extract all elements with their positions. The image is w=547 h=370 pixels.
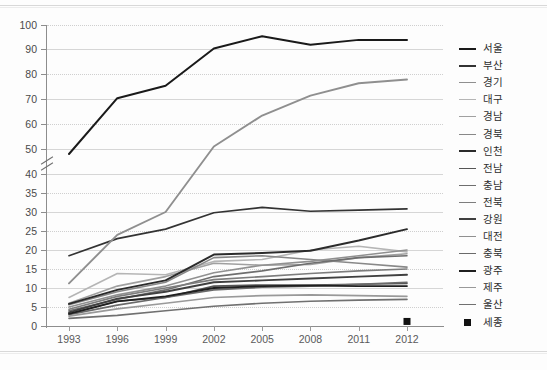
legend-line-swatch-icon	[459, 168, 476, 169]
x-axis-tick	[69, 326, 70, 331]
x-axis-tick	[166, 326, 167, 331]
series-line-서울	[69, 36, 407, 154]
x-axis-tick	[359, 326, 360, 331]
legend-line-swatch-icon	[459, 218, 476, 220]
legend-line-swatch-icon	[459, 236, 476, 237]
legend-item-경기[interactable]: 경기	[459, 74, 545, 91]
legend-item-대구[interactable]: 대구	[459, 91, 545, 108]
x-axis-tick-label: 1996	[96, 333, 138, 345]
y-axis-tick-label: 20	[3, 245, 37, 255]
y-axis-tick-label: 30	[3, 207, 37, 217]
legend-item-label: 경남	[483, 111, 503, 122]
chart-figure: 05101520253035405060708090100 1993199619…	[0, 0, 547, 370]
x-axis-tick	[117, 326, 118, 331]
legend-item-label: 광주	[483, 265, 503, 276]
y-axis-tick-label: 70	[3, 94, 37, 104]
chart-series-layer	[47, 25, 443, 326]
legend-item-강원[interactable]: 강원	[459, 211, 545, 228]
legend-item-충남[interactable]: 충남	[459, 177, 545, 194]
legend-item-전북[interactable]: 전북	[459, 194, 545, 211]
x-axis-tick-label: 2002	[193, 333, 235, 345]
legend-item-제주[interactable]: 제주	[459, 279, 545, 296]
y-axis-tick-label: 60	[3, 119, 37, 129]
legend-item-label: 대전	[483, 231, 503, 242]
legend-line-swatch-icon	[459, 202, 476, 203]
legend-item-label: 강원	[483, 214, 503, 225]
y-axis-tick-label: 50	[3, 144, 37, 154]
legend-line-swatch-icon	[459, 270, 476, 272]
series-line-강원	[69, 275, 407, 313]
legend-item-부산[interactable]: 부산	[459, 57, 545, 74]
x-axis-tick	[310, 326, 311, 331]
y-axis-tick-label: 40	[3, 169, 37, 179]
x-axis-line	[46, 326, 444, 327]
legend-item-label: 경기	[483, 77, 503, 88]
legend-item-label: 전남	[483, 163, 503, 174]
legend-item-광주[interactable]: 광주	[459, 262, 545, 279]
legend-item-울산[interactable]: 울산	[459, 296, 545, 313]
legend-item-충북[interactable]: 충북	[459, 245, 545, 262]
y-axis-tick-label: 10	[3, 283, 37, 293]
figure-bottom-border	[0, 351, 547, 352]
legend-item-label: 세종	[483, 317, 503, 328]
x-axis-tick	[214, 326, 215, 331]
y-axis-tick-label: 80	[3, 69, 37, 79]
chart-legend: 서울부산경기대구경남경북인천전남충남전북강원대전충북광주제주울산세종	[459, 40, 545, 331]
x-axis-tick-label: 2011	[338, 333, 380, 345]
legend-item-label: 제주	[483, 282, 503, 293]
figure-top-border	[0, 5, 547, 6]
legend-item-label: 서울	[483, 43, 503, 54]
y-axis-tick-label: 15	[3, 264, 37, 274]
legend-item-인천[interactable]: 인천	[459, 143, 545, 160]
y-axis-tick-label: 5	[3, 302, 37, 312]
legend-item-label: 대구	[483, 94, 503, 105]
series-line-부산	[69, 207, 407, 255]
legend-item-label: 경북	[483, 129, 503, 140]
legend-line-swatch-icon	[459, 304, 476, 305]
legend-line-swatch-icon	[459, 134, 476, 135]
series-marker-세종	[404, 318, 411, 325]
y-axis-tick-label: 25	[3, 226, 37, 236]
x-axis-tick-label: 1999	[145, 333, 187, 345]
legend-line-swatch-icon	[459, 82, 476, 83]
x-axis-tick-label: 2005	[241, 333, 283, 345]
y-axis-tick-label: 90	[3, 44, 37, 54]
legend-item-label: 충북	[483, 248, 503, 259]
legend-item-경남[interactable]: 경남	[459, 108, 545, 125]
legend-line-swatch-icon	[459, 287, 476, 288]
series-line-인천	[69, 229, 407, 304]
y-axis-tick-label: 100	[3, 20, 37, 30]
figure-top-border-inner	[0, 7, 547, 8]
x-axis-tick	[407, 326, 408, 331]
y-axis-tick-label: 35	[3, 188, 37, 198]
x-axis-tick-label: 2008	[289, 333, 331, 345]
x-axis-tick	[262, 326, 263, 331]
legend-item-경북[interactable]: 경북	[459, 125, 545, 142]
legend-line-swatch-icon	[459, 150, 476, 152]
figure-bottom-border-inner	[0, 353, 547, 354]
legend-line-swatch-icon	[459, 185, 476, 186]
legend-item-전남[interactable]: 전남	[459, 160, 545, 177]
legend-item-label: 인천	[483, 146, 503, 157]
legend-line-swatch-icon	[459, 116, 476, 117]
legend-item-대전[interactable]: 대전	[459, 228, 545, 245]
legend-line-swatch-icon	[459, 48, 476, 50]
legend-square-marker-icon	[464, 319, 471, 326]
legend-line-swatch-icon	[459, 65, 476, 67]
legend-item-label: 부산	[483, 60, 503, 71]
legend-line-swatch-icon	[459, 99, 476, 100]
legend-item-label: 전북	[483, 197, 503, 208]
legend-item-label: 충남	[483, 180, 503, 191]
x-axis-tick-label: 1993	[48, 333, 90, 345]
legend-line-swatch-icon	[459, 253, 476, 254]
legend-item-label: 울산	[483, 299, 503, 310]
x-axis-tick-label: 2012	[386, 333, 428, 345]
y-axis-tick-label: 0	[3, 321, 37, 331]
legend-item-세종[interactable]: 세종	[459, 314, 545, 331]
legend-item-서울[interactable]: 서울	[459, 40, 545, 57]
